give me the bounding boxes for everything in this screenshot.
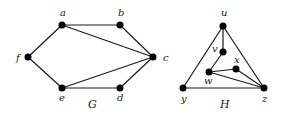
node-label-x: x	[234, 54, 240, 65]
edge-c-e	[62, 57, 153, 88]
edge-u-y	[183, 26, 223, 88]
edge-a-c	[62, 25, 153, 57]
node-f	[25, 54, 32, 61]
node-a	[59, 22, 66, 29]
node-label-w: w	[204, 75, 213, 86]
node-label-e: e	[59, 92, 65, 103]
graph-name-G: G	[88, 98, 97, 111]
node-label-z: z	[261, 93, 268, 104]
node-y	[180, 85, 187, 92]
edge-x-z	[236, 69, 264, 88]
node-v	[220, 49, 227, 56]
edge-u-z	[223, 26, 264, 88]
node-label-v: v	[212, 43, 218, 54]
edge-w-x	[209, 69, 236, 72]
node-label-c: c	[163, 52, 169, 63]
node-z	[261, 85, 268, 92]
node-c	[150, 54, 157, 61]
node-label-a: a	[60, 7, 66, 18]
edge-b-c	[120, 25, 153, 57]
node-u	[220, 23, 227, 30]
graph-h: uvwxyzH	[180, 7, 269, 111]
edge-a-f	[28, 25, 62, 57]
edge-e-f	[28, 57, 62, 88]
graph-g: abcdefG	[15, 7, 169, 111]
node-label-y: y	[180, 93, 187, 104]
node-b	[117, 22, 124, 29]
node-label-b: b	[118, 7, 124, 18]
edge-w-z	[209, 72, 264, 88]
node-d	[117, 85, 124, 92]
edge-c-d	[120, 57, 153, 88]
graph-diagram: abcdefG uvwxyzH	[0, 0, 281, 115]
node-e	[59, 85, 66, 92]
node-label-d: d	[117, 92, 123, 103]
node-label-f: f	[15, 52, 22, 63]
node-label-u: u	[221, 7, 227, 18]
edge-v-w	[209, 52, 223, 72]
graph-name-H: H	[219, 98, 230, 111]
node-x	[233, 66, 240, 73]
